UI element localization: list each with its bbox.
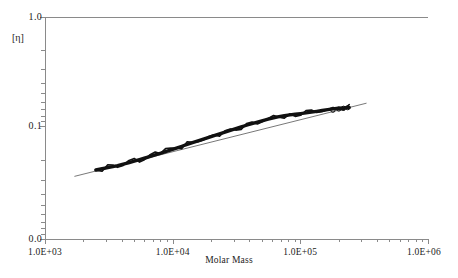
y-tick-minor <box>41 160 45 161</box>
x-tick-minor <box>389 239 390 242</box>
x-axis-title: Molar Mass <box>0 255 458 265</box>
x-tick-minor <box>153 239 154 242</box>
y-tick-minor <box>41 50 45 51</box>
x-tick-major-1e4 <box>173 239 174 244</box>
x-tick-major-1e5 <box>300 239 301 244</box>
y-tick-label-top: 1.0 <box>29 11 42 22</box>
x-tick-minor <box>144 239 145 242</box>
x-tick-minor <box>134 239 135 242</box>
x-tick-minor <box>262 239 263 242</box>
x-tick-minor <box>377 239 378 242</box>
y-tick-minor <box>41 214 45 215</box>
x-tick-minor <box>361 239 362 242</box>
x-tick-minor <box>408 239 409 242</box>
x-tick-major-1e3 <box>45 239 46 244</box>
x-tick-minor <box>234 239 235 242</box>
y-tick-minor <box>41 194 45 195</box>
x-tick-minor <box>288 239 289 242</box>
x-tick-minor <box>122 239 123 242</box>
y-tick-minor <box>41 93 45 94</box>
y-axis-line <box>45 17 46 240</box>
x-tick-minor <box>422 239 423 242</box>
x-tick-minor <box>281 239 282 242</box>
x-tick-minor <box>295 239 296 242</box>
y-tick-minor <box>41 116 45 117</box>
x-tick-major-1e6 <box>428 239 429 244</box>
x-tick-minor <box>106 239 107 242</box>
x-tick-minor <box>83 239 84 242</box>
y-tick-label-bottom: 0.0 <box>29 233 42 244</box>
x-tick-minor <box>339 239 340 242</box>
plot-area-frame <box>45 17 428 240</box>
x-tick-minor <box>249 239 250 242</box>
x-tick-minor <box>211 239 212 242</box>
y-axis-title: [η] <box>12 32 24 43</box>
x-tick-minor <box>416 239 417 242</box>
y-tick-label-mid: 0.1 <box>29 120 42 131</box>
x-tick-minor <box>167 239 168 242</box>
y-tick-minor <box>41 69 45 70</box>
y-tick-minor <box>41 180 45 181</box>
y-tick-minor <box>41 83 45 84</box>
y-tick-minor <box>41 228 45 229</box>
x-axis-line <box>45 239 429 240</box>
y-tick-minor <box>41 102 45 103</box>
x-tick-minor <box>400 239 401 242</box>
x-tick-minor <box>272 239 273 242</box>
x-tick-minor <box>160 239 161 242</box>
chart-figure: 1.0 0.1 0.0 [η] 1.0E+03 1.0E+04 1.0E+05 … <box>0 0 458 278</box>
y-tick-minor <box>41 109 45 110</box>
y-tick-minor <box>41 222 45 223</box>
y-tick-minor <box>41 205 45 206</box>
